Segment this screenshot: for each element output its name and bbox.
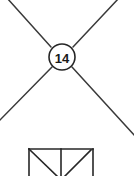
callout-number-label: 14: [55, 51, 70, 66]
callout-bubble[interactable]: 14: [49, 44, 75, 70]
diagram-canvas: 14: [0, 0, 134, 176]
structural-detail-diagram: 14: [0, 0, 134, 176]
